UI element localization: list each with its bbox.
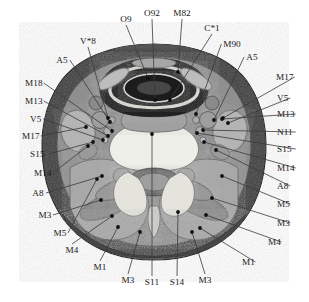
structure-label-L27[interactable]: M14: [34, 168, 52, 178]
structure-label-L12[interactable]: M14: [277, 163, 295, 173]
structure-label-L34[interactable]: V*8: [80, 36, 96, 46]
structure-label-L03[interactable]: M82: [173, 8, 191, 18]
leader-endpoint-L02: [153, 98, 157, 102]
leader-endpoint-L16: [204, 213, 208, 217]
leader-endpoint-L30: [101, 138, 105, 142]
cross-section-svg: O9O92M82C*1M90A5M17V5M13N11S15M14A8M5M3M…: [0, 0, 309, 302]
leader-endpoint-L10: [201, 128, 205, 132]
leader-endpoint-L12: [202, 140, 206, 144]
leader-endpoint-L08: [226, 121, 230, 125]
leader-endpoint-L23: [110, 214, 114, 218]
structure-label-L08[interactable]: V5: [277, 93, 289, 103]
structure-label-L01[interactable]: O9: [120, 14, 132, 24]
vessel-small-right-b: [193, 117, 200, 124]
leader-endpoint-L17: [198, 226, 202, 230]
leader-endpoint-L28: [91, 140, 95, 144]
structure-label-L06[interactable]: A5: [246, 52, 258, 62]
structure-label-L24[interactable]: M5: [54, 228, 67, 238]
structure-label-L02[interactable]: O92: [144, 8, 160, 18]
structure-label-L31[interactable]: M13: [25, 96, 43, 106]
leader-endpoint-L22: [116, 225, 120, 229]
structure-label-L10[interactable]: N11: [277, 127, 293, 137]
structure-label-L19[interactable]: S14: [170, 277, 185, 287]
structure-label-L09[interactable]: M13: [277, 109, 295, 119]
structure-label-L25[interactable]: M3: [39, 210, 52, 220]
leader-endpoint-L20: [150, 132, 154, 136]
leader-endpoint-L21: [138, 230, 142, 234]
carotid-artery-left: [92, 112, 109, 129]
leader-endpoint-L06: [212, 118, 216, 122]
leader-endpoint-L34: [106, 116, 110, 120]
structure-label-L14[interactable]: M5: [277, 199, 290, 209]
structure-label-L16[interactable]: M4: [268, 237, 281, 247]
leader-endpoint-L31: [106, 134, 110, 138]
structure-label-L32[interactable]: M18: [25, 78, 43, 88]
leader-endpoint-L19: [176, 210, 180, 214]
structure-label-L07[interactable]: M17: [276, 72, 294, 82]
leader-endpoint-L01: [146, 76, 150, 80]
leader-endpoint-L25: [99, 198, 103, 202]
leader-endpoint-L18: [190, 230, 194, 234]
structure-label-L04[interactable]: C*1: [204, 23, 220, 33]
structure-label-L30[interactable]: V5: [30, 114, 42, 124]
leader-endpoint-L03: [176, 70, 180, 74]
structure-label-L21[interactable]: M3: [122, 275, 135, 285]
leader-endpoint-L29: [84, 125, 88, 129]
structure-label-L29[interactable]: M17: [22, 131, 40, 141]
structure-label-L20[interactable]: S11: [145, 277, 160, 287]
structure-label-L13[interactable]: A8: [277, 181, 289, 191]
structure-label-L05[interactable]: M90: [223, 39, 241, 49]
leader-endpoint-L13: [214, 148, 218, 152]
leader-endpoint-L32: [110, 129, 114, 133]
structure-label-L22[interactable]: M1: [94, 262, 107, 272]
leader-endpoint-L05: [194, 112, 198, 116]
structure-label-L23[interactable]: M4: [66, 245, 79, 255]
structure-label-L26[interactable]: A8: [32, 188, 44, 198]
anatomical-figure: O9O92M82C*1M90A5M17V5M13N11S15M14A8M5M3M…: [0, 0, 309, 302]
leader-endpoint-L14: [220, 174, 224, 178]
leader-endpoint-L15: [210, 196, 214, 200]
leader-endpoint-L09: [220, 117, 224, 121]
leader-endpoint-L11: [195, 131, 199, 135]
structure-label-L18[interactable]: M3: [199, 275, 212, 285]
leader-endpoint-L27: [86, 144, 90, 148]
structure-label-L33[interactable]: A5: [56, 55, 68, 65]
leader-endpoint-L04: [168, 98, 172, 102]
leader-endpoint-L26: [100, 174, 104, 178]
structure-label-L11[interactable]: S15: [277, 144, 292, 154]
structure-label-L28[interactable]: S15: [30, 149, 45, 159]
structure-label-L17[interactable]: M1: [242, 257, 255, 267]
jugular-vein-right: [205, 96, 219, 110]
leader-endpoint-L33: [108, 120, 112, 124]
structure-label-L15[interactable]: M3: [277, 218, 290, 228]
